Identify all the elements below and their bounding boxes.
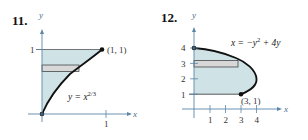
figure-11-shaded-region xyxy=(42,50,102,115)
figure-11-y-axis-label: y xyxy=(38,10,43,20)
figure-12-y-tick-label-1: 1 xyxy=(181,90,186,100)
figure-12-point-label: (3, 1) xyxy=(241,96,261,106)
figure-12-x-tick-label-4: 4 xyxy=(255,115,260,125)
figure-12-number: 12. xyxy=(161,10,177,25)
figure-12-equation: x = −y2 + 4y xyxy=(230,36,281,48)
figure-11-x-axis-label: x xyxy=(132,109,137,119)
figure-12-x-tick-label-2: 2 xyxy=(224,115,229,125)
figure-12-y-axis-label: y xyxy=(191,10,196,20)
figure-12-shaded-region xyxy=(194,48,257,94)
figure-11-x-tick-label: 1 xyxy=(104,119,109,129)
figure-11-point-label: (1, 1) xyxy=(107,45,127,55)
figure-11-y-axis-arrow-icon xyxy=(40,29,44,34)
figure-12-y-tick-label-3: 3 xyxy=(181,59,186,69)
figure-11-x-axis-arrow-icon xyxy=(127,112,132,116)
figure-12-y-tick-label-4: 4 xyxy=(181,43,186,53)
figure-12: 12. y x 1 2 3 4 1 2 3 4 xyxy=(161,10,288,125)
figure-11-number: 11. xyxy=(12,13,28,28)
figure-12-x-tick-label-3: 3 xyxy=(239,115,244,125)
figure-12-y-tick-label-2: 2 xyxy=(181,74,186,84)
figure-12-x-tick-label-1: 1 xyxy=(208,115,213,125)
figure-11-point-1-1 xyxy=(100,47,105,52)
figure-12-x-axis-arrow-icon xyxy=(277,107,282,111)
figure-11: 11. y x 1 1 (1, 1) y = x2/3 xyxy=(12,10,137,129)
figure-12-y-axis-arrow-icon xyxy=(192,27,196,32)
figure-11-y-tick-label: 1 xyxy=(30,45,35,55)
figure-12-x-axis-label: x xyxy=(283,104,288,114)
figure-11-equation: y = x2/3 xyxy=(67,90,96,102)
figure-12-representative-rectangle xyxy=(194,61,238,68)
